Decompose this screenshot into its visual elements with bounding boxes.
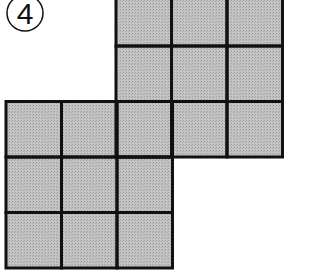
lower-left-grid-cell (62, 213, 118, 269)
figure-canvas: 4 (0, 0, 319, 275)
lower-left-grid-cell (6, 102, 62, 158)
lower-left-grid-cell (62, 157, 118, 213)
lower-left-grid-cell (117, 102, 173, 158)
upper-right-grid-cell (116, 46, 172, 102)
lower-left-grid-cell (117, 157, 173, 213)
grid-figure (6, 0, 283, 268)
upper-right-grid-cell (227, 102, 283, 158)
upper-right-grid-cell (172, 0, 228, 46)
lower-left-grid-cell (6, 157, 62, 213)
problem-number-badge: 4 (7, 0, 43, 31)
upper-right-grid-cell (227, 46, 283, 102)
lower-left-grid-cell (117, 213, 173, 269)
upper-right-grid-cell (172, 102, 228, 158)
upper-right-grid-cell (116, 0, 172, 46)
upper-right-grid-cell (172, 46, 228, 102)
problem-number: 4 (17, 0, 34, 30)
upper-right-grid-cell (227, 0, 283, 46)
lower-left-grid-cell (6, 213, 62, 269)
lower-left-grid-cell (62, 102, 118, 158)
